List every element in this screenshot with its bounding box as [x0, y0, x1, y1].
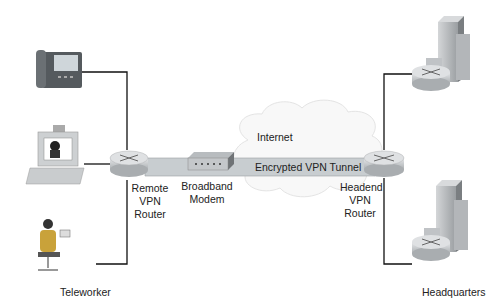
- tunnel-label: Encrypted VPN Tunnel: [255, 161, 361, 174]
- diagram-graphics: [0, 0, 504, 305]
- remote-router-label: Remote VPN Router: [130, 182, 170, 221]
- hq-building-bottom-icon: [412, 180, 468, 261]
- headquarters-label: Headquarters: [422, 286, 486, 299]
- hq-building-top-icon: [412, 16, 470, 91]
- vpn-diagram: Internet Encrypted VPN Tunnel Remote VPN…: [0, 0, 504, 305]
- modem-icon: [188, 152, 234, 170]
- modem-label: Broadband Modem: [180, 180, 234, 206]
- computer-icon: [26, 125, 84, 184]
- internet-label: Internet: [257, 131, 293, 144]
- remote-router-icon: [110, 151, 148, 177]
- ip-phone-icon: [36, 50, 82, 88]
- teleworker-icon: [38, 219, 70, 270]
- teleworker-label: Teleworker: [60, 286, 111, 299]
- headend-router-label: Headend VPN Router: [340, 181, 380, 220]
- headend-router-icon: [364, 151, 404, 177]
